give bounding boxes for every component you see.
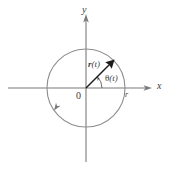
radius-label: r (125, 91, 128, 99)
angle-label: θ(t) (105, 74, 118, 83)
y-axis-label: y (82, 5, 86, 15)
angle-arc-tick-icon (97, 77, 100, 82)
counterclockwise-direction-arrowhead-icon (52, 103, 61, 112)
x-axis-label: x (157, 81, 161, 91)
position-vector-label: r(t) (88, 60, 100, 69)
uniform-circular-motion-diagram: y x 0 r r(t) θ(t) (0, 0, 170, 169)
origin-label: 0 (76, 91, 81, 101)
position-vector-label-argument: (t) (92, 59, 101, 69)
angle-label-argument: (t) (109, 73, 118, 83)
diagram-canvas (0, 0, 170, 169)
